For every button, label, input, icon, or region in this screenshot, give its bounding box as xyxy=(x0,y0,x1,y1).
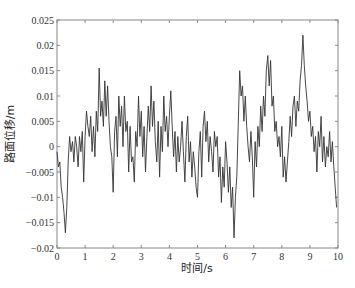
x-tick-label: 1 xyxy=(83,251,88,262)
y-tick-label: −0.015 xyxy=(26,217,54,228)
line-chart: 012345678910 0.0250.020.0150.010.0050−0.… xyxy=(0,0,355,288)
x-tick-label: 9 xyxy=(307,251,312,262)
x-tick-label: 2 xyxy=(111,251,116,262)
y-tick-label: 0.015 xyxy=(32,65,55,76)
y-axis-title: 路面位移/m xyxy=(3,105,17,163)
x-tick-label: 5 xyxy=(195,251,200,262)
x-axis-title: 时间/s xyxy=(181,262,213,275)
x-tick-label: 4 xyxy=(167,251,172,262)
x-tick-label: 7 xyxy=(251,251,256,262)
x-tick-label: 0 xyxy=(55,251,60,262)
y-tick-label: 0.01 xyxy=(37,91,55,102)
y-tick-label: −0.02 xyxy=(31,243,54,254)
y-tick-label: 0.005 xyxy=(32,116,55,127)
y-tick-label: 0.02 xyxy=(37,40,55,51)
plot-area xyxy=(57,20,338,248)
x-tick-label: 8 xyxy=(279,251,284,262)
y-tick-label: 0 xyxy=(49,141,54,152)
y-tick-label: 0.025 xyxy=(32,15,55,26)
x-tick-label: 10 xyxy=(333,251,343,262)
y-tick-label: −0.005 xyxy=(26,167,54,178)
y-tick-label: −0.01 xyxy=(31,192,54,203)
x-tick-label: 3 xyxy=(139,251,144,262)
x-tick-label: 6 xyxy=(223,251,228,262)
